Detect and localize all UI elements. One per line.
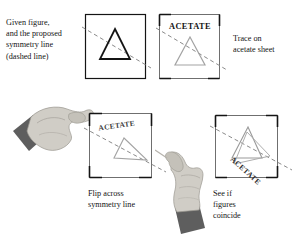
- caption-step-4: See if figures coincide: [213, 188, 277, 222]
- panel-flipped-acetate: ACETATE: [86, 110, 166, 186]
- panel-given-figure: [83, 12, 153, 84]
- acetate-label: ACETATE: [169, 22, 211, 31]
- hand-holding-acetate-right: [155, 148, 217, 234]
- figure-canvas: Given figure, and the proposed symmetry …: [0, 0, 299, 237]
- caption-step-2: Trace on acetate sheet: [233, 33, 297, 55]
- palm-shape: [27, 107, 93, 150]
- hand-holding-acetate-left: [11, 105, 97, 167]
- panel-traced-acetate: ACETATE: [157, 12, 229, 84]
- panel-coincide-check: ACETATE: [212, 112, 292, 186]
- pinch-tip: [155, 150, 167, 158]
- thumb-shape: [68, 112, 85, 123]
- caption-step-1: Given figure, and the proposed symmetry …: [6, 17, 84, 62]
